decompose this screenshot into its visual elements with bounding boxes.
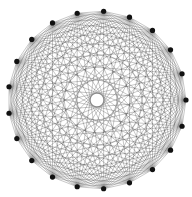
graph-edge (17, 139, 53, 177)
graph-node (75, 11, 80, 16)
graph-edge (53, 170, 153, 178)
graph-node (183, 97, 188, 102)
graph-node (50, 174, 55, 179)
graph-edge (130, 17, 183, 74)
graph-node (179, 71, 184, 76)
graph-node (101, 9, 106, 14)
complete-graph-diagram (0, 0, 192, 197)
graph-edge (104, 11, 182, 74)
graph-nodes (6, 9, 188, 192)
graph-edge (53, 177, 130, 183)
graph-edge (53, 23, 130, 183)
graph-node (179, 124, 184, 129)
graph-edge (104, 11, 171, 150)
graph-edge (17, 139, 32, 161)
graph-node (6, 84, 11, 89)
graph-edge (17, 139, 77, 187)
graph-node (168, 47, 173, 52)
graph-edges (9, 11, 186, 189)
graph-edge (32, 100, 186, 161)
graph-node (14, 136, 19, 141)
graph-edge (77, 13, 170, 150)
graph-node (101, 186, 106, 191)
graph-node (29, 158, 34, 163)
graph-edge (32, 17, 130, 160)
graph-edge (17, 23, 53, 61)
graph-node (29, 37, 34, 42)
graph-edge (152, 30, 182, 73)
graph-node (50, 20, 55, 25)
graph-edge (32, 39, 186, 100)
graph-node (75, 184, 80, 189)
graph-node (6, 111, 11, 116)
graph-edge (17, 39, 32, 61)
graph-node (127, 15, 132, 20)
graph-node (127, 180, 132, 185)
graph-edge (53, 17, 130, 23)
graph-edge (77, 50, 170, 187)
graph-edge (32, 39, 130, 182)
graph-edge (152, 126, 182, 169)
graph-node (150, 28, 155, 33)
graph-node (168, 148, 173, 153)
graph-node (14, 59, 19, 64)
graph-edge (53, 23, 153, 31)
graph-node (150, 167, 155, 172)
graph-edge (104, 126, 182, 189)
graph-edge (130, 126, 183, 183)
graph-edge (17, 61, 77, 186)
graph-edge (17, 13, 77, 61)
